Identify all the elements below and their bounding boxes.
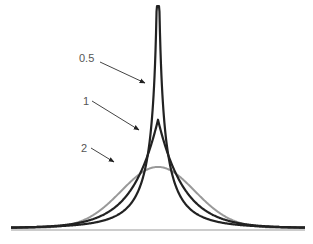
chart: 0.5 1 2 xyxy=(0,0,313,244)
arrow-2 xyxy=(91,148,114,162)
label-1: 1 xyxy=(83,95,89,107)
curves xyxy=(11,6,305,228)
label-0.5: 0.5 xyxy=(79,52,94,64)
label-2: 2 xyxy=(81,142,87,154)
annotations xyxy=(91,62,145,162)
arrow-1 xyxy=(92,101,139,130)
curve-shape-2 xyxy=(11,167,305,228)
curve-shape-0.5 xyxy=(11,6,305,227)
curve-shape-1 xyxy=(11,120,305,228)
arrow-0.5 xyxy=(100,62,145,83)
